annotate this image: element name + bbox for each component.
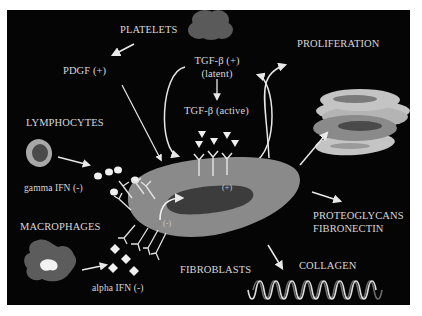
label-gamma-ifn: gamma IFN (-)	[24, 184, 83, 194]
label-collagen: COLLAGEN	[299, 261, 356, 272]
macrophage-icon	[24, 239, 76, 281]
platelet-cloud-icon	[188, 10, 233, 40]
arrow-macrophage-to-ifn	[82, 265, 106, 270]
arrow-lymphocyte-to-ifn	[58, 157, 89, 165]
arrow-pdgf-to-fibroblast	[122, 85, 161, 160]
label-alpha-ifn: alpha IFN (-)	[92, 284, 143, 294]
label-macrophages: MACROPHAGES	[20, 222, 100, 233]
label-fibronectin: FIBRONECTIN	[313, 224, 384, 235]
label-tgf-active: TGF-β (active)	[184, 106, 249, 117]
arrow-fibroblast-to-collagen	[268, 245, 282, 268]
tgf-receptors	[194, 151, 232, 176]
arrow-tgf-to-proliferation	[265, 65, 285, 158]
label-proteoglycans: PROTEOGLYCANS	[313, 211, 404, 222]
label-minus-effect: (-)	[163, 220, 171, 228]
label-pdgf: PDGF (+)	[63, 66, 106, 77]
label-tgf-latent-line1: TGF-β (+)	[190, 56, 244, 67]
arrow-tgf-loop-left	[164, 67, 185, 156]
tgf-active-ligands	[195, 131, 239, 148]
label-lymphocytes: LYMPHOCYTES	[26, 118, 104, 129]
label-fibroblasts: FIBROBLASTS	[180, 265, 251, 276]
label-tgf-latent-line2: (latent)	[190, 69, 244, 80]
label-plus-effect: (+)	[222, 184, 232, 192]
label-proliferation: PROLIFERATION	[297, 39, 379, 50]
label-platelets: PLATELETS	[120, 25, 177, 36]
alpha-ifn-molecules	[108, 244, 139, 276]
proliferating-cells-icon	[313, 89, 410, 158]
collagen-helix-icon	[248, 281, 382, 299]
arrow-platelets-to-pdgf	[113, 44, 134, 55]
lymphocyte-icon	[24, 137, 54, 169]
arrow-fibroblast-to-proteoglycans	[312, 192, 340, 201]
